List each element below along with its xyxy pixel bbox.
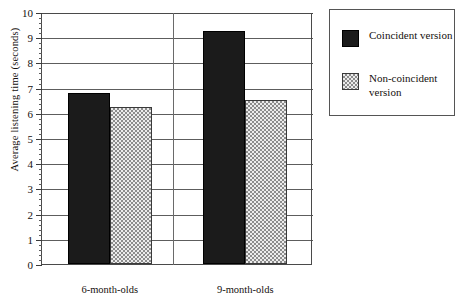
- y-gridline: [42, 13, 313, 14]
- y-gridline: [42, 38, 313, 39]
- chart-legend: Coincident version Non-coincident versio…: [329, 9, 455, 116]
- y-axis-tick-minor: [39, 174, 43, 175]
- y-axis-tick-minor: [39, 149, 43, 150]
- y-axis-tick-minor: [39, 28, 43, 29]
- plot-right-edge: [311, 13, 312, 265]
- y-axis-tick-major: [36, 89, 42, 90]
- legend-item-coincident: Coincident version: [342, 29, 452, 47]
- y-axis-tick-minor: [39, 119, 43, 120]
- y-axis-tick-major: [36, 114, 42, 115]
- y-axis-tick-minor: [39, 154, 43, 155]
- y-axis-tick-minor: [39, 18, 43, 19]
- y-axis-tick-minor: [39, 159, 43, 160]
- y-axis-tick-major: [36, 189, 42, 190]
- y-axis-tick-minor: [39, 194, 43, 195]
- y-axis-tick-minor: [39, 84, 43, 85]
- y-axis-tick-minor: [39, 225, 43, 226]
- y-axis-tick-label: 10: [22, 7, 33, 19]
- y-axis-tick-major: [36, 265, 42, 266]
- y-axis-tick-minor: [39, 58, 43, 59]
- y-axis-tick-label: 0: [28, 259, 34, 271]
- y-axis-tick-minor: [39, 73, 43, 74]
- y-axis-tick-minor: [39, 79, 43, 80]
- y-axis-tick-major: [36, 13, 42, 14]
- y-axis-title: Average listening time (seconds): [9, 0, 20, 200]
- y-axis-tick-minor: [39, 53, 43, 54]
- y-axis-tick-minor: [39, 134, 43, 135]
- y-axis-tick-label: 9: [28, 32, 34, 44]
- bar-coincident: [68, 93, 110, 264]
- y-axis-tick-label: 5: [28, 133, 34, 145]
- y-axis-tick-minor: [39, 23, 43, 24]
- y-axis-tick-minor: [39, 235, 43, 236]
- plot-inner: [42, 13, 312, 264]
- y-axis-tick-minor: [39, 109, 43, 110]
- bar-non-coincident: [245, 100, 287, 264]
- y-axis-tick-minor: [39, 220, 43, 221]
- y-axis-tick-label: 6: [28, 108, 34, 120]
- y-axis-tick-major: [36, 215, 42, 216]
- y-axis-tick-minor: [39, 43, 43, 44]
- y-axis-tick-label: 4: [28, 158, 34, 170]
- y-axis-tick-major: [36, 38, 42, 39]
- y-axis-tick-minor: [39, 260, 43, 261]
- y-axis-tick-minor: [39, 255, 43, 256]
- bar-coincident: [203, 31, 245, 264]
- legend-item-non-coincident: Non-coincident version: [342, 72, 454, 99]
- y-axis-tick-minor: [39, 124, 43, 125]
- y-axis-tick-minor: [39, 169, 43, 170]
- y-axis-tick-minor: [39, 33, 43, 34]
- y-axis-tick-minor: [39, 48, 43, 49]
- y-axis-tick-major: [36, 63, 42, 64]
- y-gridline: [42, 89, 313, 90]
- y-axis-tick-label: 8: [28, 57, 34, 69]
- x-axis-tick-label: 9-month-olds: [217, 284, 274, 295]
- y-axis-tick-minor: [39, 184, 43, 185]
- legend-swatch-non-coincident-icon: [342, 73, 359, 90]
- plot-area: 0123456789106-month-olds9-month-olds: [41, 13, 312, 265]
- y-axis-tick-minor: [39, 99, 43, 100]
- y-axis-tick-minor: [39, 104, 43, 105]
- y-axis-tick-label: 1: [28, 234, 34, 246]
- legend-label-coincident: Coincident version: [369, 29, 452, 43]
- y-axis-tick-minor: [39, 179, 43, 180]
- y-axis-tick-label: 3: [28, 183, 34, 195]
- y-axis-tick-minor: [39, 129, 43, 130]
- group-separator-line: [173, 13, 174, 265]
- y-axis-tick-major: [36, 164, 42, 165]
- legend-swatch-coincident-icon: [342, 30, 359, 47]
- y-axis-tick-minor: [39, 94, 43, 95]
- y-axis-tick-minor: [39, 68, 43, 69]
- y-axis-tick-minor: [39, 199, 43, 200]
- y-axis-tick-minor: [39, 205, 43, 206]
- y-axis-tick-major: [36, 240, 42, 241]
- y-axis-tick-minor: [39, 210, 43, 211]
- bar-non-coincident: [110, 107, 152, 265]
- y-axis-tick-minor: [39, 250, 43, 251]
- y-axis-tick-label: 7: [28, 83, 34, 95]
- y-axis-tick-major: [36, 139, 42, 140]
- y-axis-tick-minor: [39, 230, 43, 231]
- y-axis-tick-minor: [39, 245, 43, 246]
- y-axis-tick-minor: [39, 144, 43, 145]
- y-axis-tick-label: 2: [28, 209, 34, 221]
- x-axis-tick-label: 6-month-olds: [81, 284, 138, 295]
- y-gridline: [42, 63, 313, 64]
- legend-label-non-coincident: Non-coincident version: [369, 72, 454, 99]
